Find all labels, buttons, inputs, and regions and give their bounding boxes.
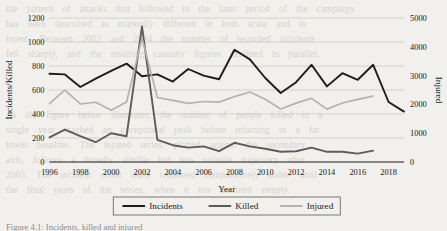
x-axis-tick-label: 1996 [41, 168, 58, 177]
x-axis-tick-label: 1998 [72, 168, 89, 177]
x-axis-tick-label: 2014 [319, 168, 337, 177]
y2-axis-tick-label: 5000 [410, 14, 427, 23]
y2-axis-title: Injured [434, 77, 444, 104]
x-axis-tick-label: 2002 [134, 168, 151, 177]
y-axis-tick-label: 800 [32, 62, 45, 71]
legend-label-killed: Killed [235, 201, 258, 211]
x-axis-tick-label: 2004 [164, 168, 182, 177]
x-axis-title: Year [218, 184, 235, 194]
chart-container: 0200400600800100012000100020003000400050… [0, 0, 447, 231]
y2-axis-tick-label: 0 [410, 158, 414, 167]
y2-axis-tick-label: 4000 [410, 43, 427, 52]
x-axis-tick-label: 2016 [349, 168, 366, 177]
y-axis-tick-label: 400 [32, 110, 45, 119]
x-axis-tick-label: 2018 [380, 168, 397, 177]
legend-label-injured: Injured [307, 201, 334, 211]
series-line-injured [50, 38, 374, 110]
y-axis-title: Incidents/Killed [4, 60, 14, 120]
y-axis-tick-label: 0 [40, 158, 44, 167]
legend-label-incidents: Incidents [149, 201, 183, 211]
y2-axis-tick-label: 1000 [410, 129, 427, 138]
x-axis-tick-label: 2000 [103, 168, 120, 177]
x-axis-tick-label: 2006 [195, 168, 212, 177]
y-axis-tick-label: 600 [32, 86, 45, 95]
line-chart: 0200400600800100012000100020003000400050… [0, 0, 447, 231]
y-axis-tick-label: 1200 [28, 14, 45, 23]
x-axis-tick-label: 2012 [288, 168, 305, 177]
y-axis-tick-label: 200 [32, 134, 45, 143]
y2-axis-tick-label: 3000 [410, 72, 427, 81]
series-line-incidents [50, 50, 405, 112]
y-axis-tick-label: 1000 [28, 38, 45, 47]
y2-axis-tick-label: 2000 [410, 100, 427, 109]
x-axis-tick-label: 2010 [257, 168, 274, 177]
x-axis-tick-label: 2008 [226, 168, 243, 177]
